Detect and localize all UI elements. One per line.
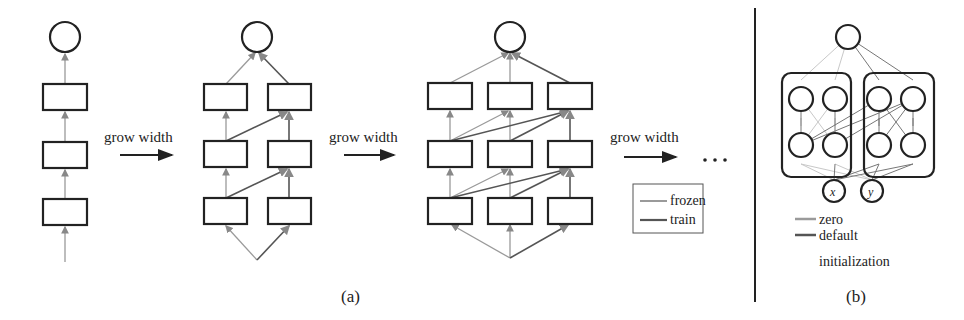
- layer-block: [204, 198, 247, 224]
- caption-a: (a): [341, 287, 360, 306]
- layer-block: [204, 84, 247, 110]
- layer-block: [204, 141, 247, 167]
- hidden-node: [867, 133, 891, 157]
- layer-block: [548, 198, 592, 224]
- output-node: [495, 22, 525, 52]
- legend-train-label: train: [670, 212, 696, 227]
- output-node: [50, 22, 80, 52]
- grow-width-label: grow width: [610, 129, 679, 145]
- hidden-node: [823, 133, 847, 157]
- layer-block: [43, 199, 87, 225]
- layer-block: [43, 84, 87, 110]
- panel-b: x y zero default initialization (b): [782, 25, 934, 306]
- layer-block: [488, 141, 532, 167]
- legend-frozen-label: frozen: [670, 193, 706, 208]
- input-label-x: x: [829, 185, 836, 199]
- layer-block: [428, 83, 472, 109]
- layer-block: [43, 142, 87, 168]
- grow-width-label: grow width: [104, 129, 173, 145]
- layer-block: [488, 198, 532, 224]
- hidden-node: [789, 133, 813, 157]
- figure: grow width: [0, 0, 964, 320]
- layer-block: [268, 141, 311, 167]
- input-label-y: y: [867, 185, 874, 199]
- hidden-node: [867, 87, 891, 111]
- caption-b: (b): [846, 287, 866, 306]
- hidden-node: [901, 87, 925, 111]
- hidden-node: [789, 87, 813, 111]
- layer-block: [428, 198, 472, 224]
- ellipsis-icon: [703, 158, 727, 162]
- hidden-node: [901, 133, 925, 157]
- hidden-node: [823, 87, 847, 111]
- legend-a: frozen train: [633, 184, 706, 233]
- legend-initialization-label: initialization: [819, 254, 890, 269]
- layer-block: [548, 83, 592, 109]
- layer-block: [548, 141, 592, 167]
- panel-a: grow width: [43, 22, 727, 306]
- layer-block: [268, 198, 311, 224]
- output-node: [836, 25, 860, 49]
- layer-block: [428, 141, 472, 167]
- grow-width-label: grow width: [329, 129, 398, 145]
- legend-zero-label: zero: [819, 212, 843, 227]
- legend-default-label: default: [819, 228, 858, 243]
- legend-b: zero default initialization: [795, 212, 890, 269]
- layer-block: [268, 84, 311, 110]
- output-node: [242, 22, 272, 52]
- layer-block: [488, 83, 532, 109]
